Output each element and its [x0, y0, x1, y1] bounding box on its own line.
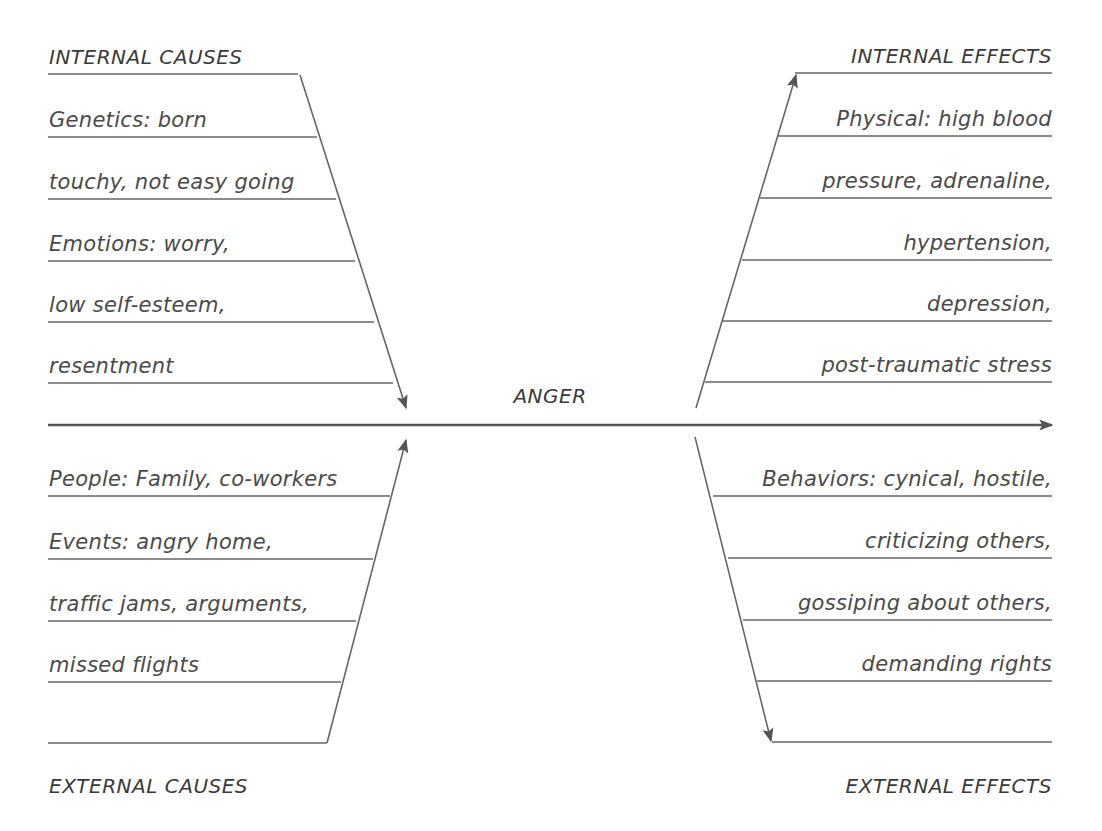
external-effect-line: Behaviors: cynical, hostile,	[762, 469, 1052, 490]
internal-cause-line: low self-esteem,	[49, 295, 226, 316]
internal-cause-line: Genetics: born	[49, 110, 207, 131]
internal-cause-line: Emotions: worry,	[49, 234, 230, 255]
internal-causes-arrow	[300, 75, 406, 408]
internal-cause-line: touchy, not easy going	[49, 172, 295, 193]
external-effect-line: criticizing others,	[865, 531, 1052, 552]
internal-effects-header: INTERNAL EFFECTS	[851, 46, 1052, 66]
internal-effect-line: Physical: high blood	[836, 109, 1052, 130]
internal-effect-line: post-traumatic stress	[821, 355, 1052, 376]
internal-cause-line: resentment	[49, 356, 174, 377]
external-effect-line: demanding rights	[862, 654, 1052, 675]
external-cause-line: Events: angry home,	[49, 532, 273, 553]
internal-effect-line: hypertension,	[903, 233, 1052, 254]
internal-effects-arrow	[696, 75, 796, 408]
external-effects-header: EXTERNAL EFFECTS	[846, 776, 1052, 796]
internal-effect-line: pressure, adrenaline,	[822, 171, 1052, 192]
external-cause-line: traffic jams, arguments,	[49, 594, 309, 615]
external-cause-line: missed flights	[49, 655, 199, 676]
external-effect-line: gossiping about others,	[798, 593, 1052, 614]
external-causes-header: EXTERNAL CAUSES	[49, 776, 248, 796]
external-cause-line: People: Family, co-workers	[49, 469, 338, 490]
external-effects-arrow	[695, 437, 771, 741]
center-label-anger: ANGER	[470, 386, 630, 406]
external-causes-arrow	[327, 440, 406, 743]
internal-causes-header: INTERNAL CAUSES	[49, 47, 243, 67]
internal-effect-line: depression,	[927, 294, 1052, 315]
